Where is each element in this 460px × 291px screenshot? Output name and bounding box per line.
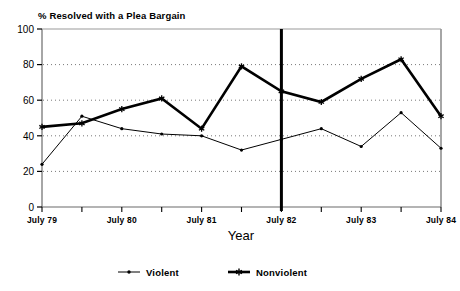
chart-title: % Resolved with a Plea Bargain xyxy=(38,10,186,21)
data-point-violent xyxy=(200,134,203,137)
gridlines xyxy=(43,65,440,172)
legend-label-nonviolent: Nonviolent xyxy=(256,267,308,278)
plea-bargain-line-chart: % Resolved with a Plea Bargain 020406080… xyxy=(0,0,460,291)
legend-label-violent: Violent xyxy=(146,267,180,278)
data-point-violent xyxy=(439,147,442,150)
y-axis-ticks: 020406080100 xyxy=(17,24,42,213)
y-tick-label: 80 xyxy=(23,59,35,70)
data-point-violent xyxy=(320,127,323,130)
data-point-violent xyxy=(360,145,363,148)
x-axis-tick-labels: July 79July 80July 81July 82July 83July … xyxy=(27,215,456,225)
y-tick-label: 20 xyxy=(23,166,35,177)
data-point-violent xyxy=(160,132,163,135)
data-point-violent xyxy=(80,115,83,118)
data-series-group xyxy=(39,56,443,166)
y-tick-label: 100 xyxy=(17,24,34,35)
chart-legend: ViolentNonviolent xyxy=(118,267,308,278)
chart-container: % Resolved with a Plea Bargain 020406080… xyxy=(0,0,460,291)
series-line-nonviolent xyxy=(42,59,441,128)
x-tick-label: July 83 xyxy=(346,215,376,225)
data-point-violent xyxy=(400,111,403,114)
data-point-violent xyxy=(40,163,43,166)
x-tick-label: July 84 xyxy=(426,215,456,225)
x-tick-label: July 81 xyxy=(186,215,216,225)
x-tick-label: July 79 xyxy=(27,215,57,225)
legend-marker-violent xyxy=(127,270,130,273)
y-tick-label: 60 xyxy=(23,95,35,106)
data-point-violent xyxy=(280,138,283,141)
x-tick-label: July 80 xyxy=(107,215,137,225)
data-point-violent xyxy=(240,148,243,151)
series-line-violent xyxy=(42,113,441,165)
data-point-violent xyxy=(120,127,123,130)
y-tick-label: 40 xyxy=(23,131,35,142)
plot-frame xyxy=(42,29,441,207)
x-axis-ticks xyxy=(42,207,441,212)
y-tick-label: 0 xyxy=(28,202,34,213)
x-axis-title: Year xyxy=(228,228,255,243)
x-tick-label: July 82 xyxy=(266,215,296,225)
